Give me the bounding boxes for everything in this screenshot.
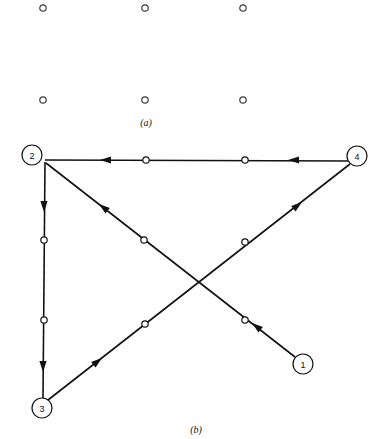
node-2-label: 2 [29, 151, 34, 161]
node-1-label: 1 [300, 360, 305, 370]
node-2[interactable]: 2 [22, 145, 42, 165]
figure-container: 1234 (a)(b) [0, 0, 385, 439]
node-3-label: 3 [39, 404, 44, 414]
edge-2-to-3-arrowhead-2 [39, 361, 46, 372]
grid-dot-top-left [40, 5, 46, 11]
node-4[interactable]: 4 [347, 146, 367, 166]
panel-b-nodes: 1234 [22, 145, 367, 418]
node-3[interactable]: 3 [32, 398, 52, 418]
edge-1-to-2 [46, 163, 295, 357]
edge-4-to-2-junction-dot-2 [242, 157, 248, 163]
edge-4-to-2-line [45, 160, 348, 161]
edge-1-to-2-junction-dot-1 [141, 237, 147, 243]
edge-2-to-3-arrowhead-1 [40, 201, 47, 212]
edge-3-to-4-junction-dot-1 [142, 321, 148, 327]
node-1[interactable]: 1 [293, 354, 313, 374]
grid-dot-top-right [240, 5, 246, 11]
edge-2-to-3-junction-dot-2 [41, 317, 47, 323]
node-4-label: 4 [354, 152, 359, 162]
edge-3-to-4-junction-dot-2 [242, 239, 248, 245]
edge-4-to-2-arrowhead-1 [100, 156, 111, 163]
edge-1-to-2-junction-dot-2 [242, 317, 248, 323]
edge-2-to-3 [39, 162, 47, 398]
panel-a-caption: (a) [140, 117, 152, 129]
panel-b-caption: (b) [190, 424, 202, 436]
figure-captions: (a)(b) [140, 117, 202, 436]
grid-dot-bottom-left [40, 97, 46, 103]
grid-dot-bottom-center [142, 97, 148, 103]
graph-figure-svg: 1234 (a)(b) [0, 0, 385, 439]
edge-4-to-2-junction-dot-1 [143, 157, 149, 163]
grid-dot-top-center [142, 5, 148, 11]
edge-4-to-2 [45, 156, 348, 163]
edge-4-to-2-arrowhead-2 [288, 156, 299, 163]
grid-dot-bottom-right [240, 97, 246, 103]
edge-2-to-3-junction-dot-1 [41, 237, 47, 243]
panel-a [40, 5, 246, 103]
